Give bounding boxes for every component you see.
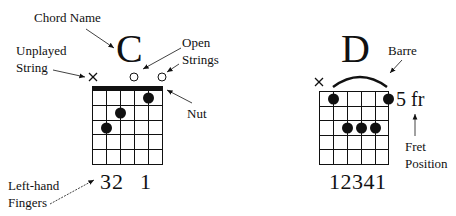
nut-bar	[92, 86, 163, 91]
barre-arc	[333, 77, 387, 87]
open-strings-label-1: Open	[182, 35, 211, 50]
chord-d-fingering: 12341	[329, 169, 387, 194]
finger-dot	[356, 123, 367, 134]
fret-position-label-2: Position	[405, 156, 448, 171]
chord-d-diagram: D Barre 5 fr Fret Pos	[315, 26, 448, 194]
barre-label: Barre	[388, 43, 417, 58]
unplayed-string-label-2: String	[16, 60, 48, 75]
open-string-circle-icon	[158, 73, 166, 81]
chord-d-name: D	[341, 26, 370, 71]
open-arrow-1	[143, 48, 181, 69]
finger-dot	[101, 123, 112, 134]
chord-c-diagram: Chord Name C Unplayed String Open String…	[8, 10, 219, 210]
chord-c-fingering: 321	[100, 169, 151, 194]
fret-position-label-1: Fret	[405, 139, 426, 154]
nut-arrow	[167, 90, 192, 103]
open-strings-label-2: Strings	[182, 52, 219, 67]
unplayed-string-x-icon	[89, 73, 97, 81]
finger-dot	[115, 108, 126, 119]
unplayed-string-label-1: Unplayed	[16, 43, 67, 58]
chord-diagram-figure: Chord Name C Unplayed String Open String…	[0, 0, 456, 216]
chord-c-name: C	[116, 26, 143, 71]
chord-name-arrow	[86, 29, 114, 48]
finger-dot	[370, 123, 381, 134]
unplayed-string-x-icon	[315, 78, 323, 86]
finger-dot	[342, 123, 353, 134]
finger-dot	[143, 93, 154, 104]
fret-position-value: 5 fr	[396, 88, 425, 110]
unplayed-arrow	[53, 70, 85, 77]
nut-label: Nut	[187, 106, 207, 121]
left-hand-fingers-label-2: Fingers	[8, 195, 47, 210]
chord-name-label: Chord Name	[34, 10, 101, 25]
open-string-circle-icon	[130, 73, 138, 81]
left-hand-fingers-label-1: Left-hand	[8, 178, 60, 193]
finger-dot	[328, 94, 339, 105]
finger-dot	[383, 94, 394, 105]
barre-arrow	[390, 60, 402, 73]
open-arrow-2	[167, 64, 179, 72]
